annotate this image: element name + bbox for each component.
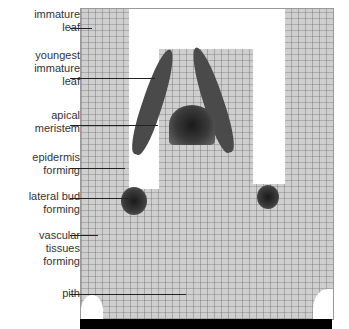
leader-apical-meristem <box>70 125 158 126</box>
lateral-bud-right <box>257 185 279 209</box>
label-apical-meristem: apical meristem <box>35 109 80 135</box>
leader-youngest-immature-leaf <box>70 78 155 79</box>
leader-immature-leaf <box>70 28 92 29</box>
leader-lateral-bud-forming <box>70 198 130 199</box>
lateral-bud-left <box>121 187 147 215</box>
label-immature-leaf: immature leaf <box>34 8 80 34</box>
leader-pith <box>70 294 186 295</box>
leader-epidermis-forming <box>70 168 125 169</box>
label-epidermis-forming: epidermis forming <box>32 151 80 177</box>
leader-vascular-tissues-forming <box>70 235 98 236</box>
gap-top <box>151 9 261 49</box>
notch-bottom-right <box>313 289 334 320</box>
apical-meristem-dome <box>169 105 215 145</box>
label-youngest-immature-leaf: youngest immature leaf <box>34 49 80 88</box>
notch-bottom-left <box>81 295 103 320</box>
label-lateral-bud-forming: lateral bud forming <box>29 190 80 216</box>
caption-bar <box>80 319 332 329</box>
micrograph <box>80 8 334 320</box>
